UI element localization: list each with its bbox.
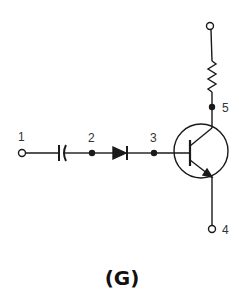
node-4-label: 4 <box>222 223 229 237</box>
npn-transistor-icon <box>174 124 228 178</box>
figure-caption: (G) <box>105 266 140 290</box>
terminal-1-icon <box>19 150 26 157</box>
node-2-label: 2 <box>88 131 95 145</box>
terminal-4-icon <box>209 226 216 233</box>
node-5-dot-icon <box>209 104 215 110</box>
node-1-label: 1 <box>18 130 25 144</box>
node-3-label: 3 <box>150 131 157 145</box>
resistor-icon <box>208 61 216 92</box>
node-3-dot-icon <box>151 150 157 156</box>
circuit-diagram: 1 2 3 5 4 (G) <box>0 0 239 307</box>
node-5-label: 5 <box>222 101 229 115</box>
wire-resistor-top <box>211 30 212 61</box>
terminal-top-icon <box>207 23 214 30</box>
node-2-dot-icon <box>89 150 95 156</box>
diode-icon <box>113 146 127 160</box>
